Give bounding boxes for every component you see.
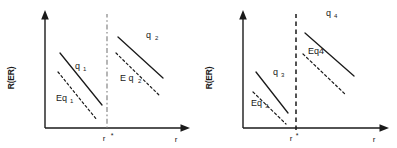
y-axis-label-right: R(ER) (204, 66, 214, 89)
curve-Eq4 (303, 54, 346, 95)
svg-text:2: 2 (138, 78, 142, 84)
curve-label-q1: q 1 (75, 61, 87, 72)
threshold-star-right: * (296, 132, 299, 139)
svg-text:4: 4 (334, 13, 338, 19)
curve-Eq3 (253, 92, 286, 124)
x-axis-label-left: r (175, 135, 178, 144)
y-axis-left (41, 10, 49, 128)
threshold-label-right: r (290, 134, 293, 143)
x-axis-left (45, 124, 190, 132)
svg-text:2: 2 (155, 35, 159, 41)
y-axis-label-left: R(ER) (6, 66, 16, 89)
curve-label-q4: q 4 (326, 8, 338, 19)
curve-q2 (118, 37, 163, 78)
threshold-star-left: * (111, 132, 114, 139)
x-axis-right (243, 124, 389, 132)
svg-text:q: q (146, 30, 151, 40)
curve-label-q2: q 2 (146, 30, 159, 41)
svg-text:Eq4: Eq4 (308, 46, 324, 56)
x-axis-label-right: r (373, 135, 376, 144)
curve-label-q3: q 3 (273, 67, 285, 78)
svg-text:Eq: Eq (56, 93, 67, 103)
curve-label-Eq1: Eq 1 (56, 93, 74, 104)
right-panel: R(ER) r r * q 3 Eq 3 (198, 0, 396, 148)
svg-text:3: 3 (281, 72, 285, 78)
svg-text:q: q (326, 8, 331, 18)
svg-text:3: 3 (265, 103, 269, 109)
curve-label-Eq4: Eq4 (308, 46, 324, 56)
svg-text:q: q (273, 67, 278, 77)
svg-text:E q: E q (120, 73, 134, 83)
y-axis-right (239, 10, 247, 128)
left-panel: R(ER) r r * q 1 Eq 1 (0, 0, 198, 148)
svg-text:1: 1 (70, 98, 74, 104)
svg-text:q: q (75, 61, 80, 71)
svg-text:Eq: Eq (251, 98, 262, 108)
figure-root: R(ER) r r * q 1 Eq 1 (0, 0, 397, 148)
svg-text:1: 1 (83, 66, 87, 72)
curve-label-Eq3: Eq 3 (251, 98, 269, 109)
threshold-label-left: r (103, 134, 106, 143)
